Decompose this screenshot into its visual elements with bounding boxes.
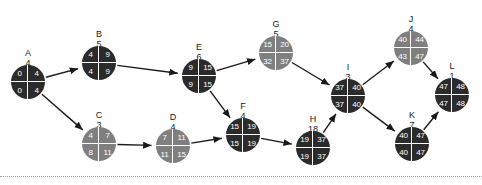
node-l[interactable]: 47484748 <box>435 78 469 112</box>
node-divider-vertical <box>312 131 313 165</box>
node-divider-vertical <box>410 31 411 65</box>
node-d-early-start: 7 <box>156 129 173 146</box>
node-name-h: H <box>291 114 335 124</box>
node-b-early-start: 4 <box>82 46 99 63</box>
node-c-late-finish: 11 <box>99 144 116 161</box>
node-j-late-finish: 47 <box>411 48 428 65</box>
node-name-i: I <box>326 62 370 72</box>
node-divider-horizontal <box>296 147 330 148</box>
node-c-early-start: 4 <box>82 127 99 144</box>
node-l-early-finish: 48 <box>452 78 469 95</box>
node-g-late-finish: 37 <box>276 53 293 70</box>
node-divider-horizontal <box>435 94 469 95</box>
node-name-l: L <box>430 61 474 71</box>
node-divider-horizontal <box>226 134 260 135</box>
network-diagram-canvas: A40404B54949C347811D47111115E6915915F415… <box>0 0 482 185</box>
node-g-late-start: 32 <box>259 53 276 70</box>
node-g-early-start: 15 <box>259 36 276 53</box>
node-k-early-start: 40 <box>395 127 412 144</box>
node-l-late-finish: 48 <box>452 95 469 112</box>
node-divider-horizontal <box>331 95 365 96</box>
node-g-early-finish: 20 <box>276 36 293 53</box>
node-e[interactable]: 915915 <box>182 59 216 93</box>
node-c[interactable]: 47811 <box>82 127 116 161</box>
node-divider-vertical <box>172 129 173 163</box>
node-b-late-finish: 9 <box>99 63 116 80</box>
node-name-k: K <box>390 110 434 120</box>
node-d[interactable]: 7111115 <box>156 129 190 163</box>
node-name-j: J <box>389 14 433 24</box>
node-h-early-start: 19 <box>296 131 313 148</box>
node-layer: A40404B54949C347811D47111115E6915915F415… <box>0 0 482 185</box>
bottom-divider <box>0 176 482 177</box>
node-divider-horizontal <box>82 62 116 63</box>
node-j-late-start: 43 <box>394 48 411 65</box>
node-b-early-finish: 9 <box>99 46 116 63</box>
node-h[interactable]: 19371937 <box>296 131 330 165</box>
node-d-early-finish: 11 <box>173 129 190 146</box>
node-name-b: B <box>77 29 121 39</box>
node-h-late-start: 19 <box>296 148 313 165</box>
node-name-d: D <box>151 112 195 122</box>
node-name-a: A <box>6 48 50 58</box>
node-f-late-start: 15 <box>226 135 243 152</box>
node-divider-horizontal <box>156 145 190 146</box>
node-b-late-start: 4 <box>82 63 99 80</box>
node-divider-vertical <box>275 36 276 70</box>
node-a-early-start: 0 <box>11 65 28 82</box>
node-d-late-start: 11 <box>156 146 173 163</box>
node-name-g: G <box>254 19 298 29</box>
node-name-e: E <box>177 42 221 52</box>
node-a-late-start: 0 <box>11 82 28 99</box>
node-divider-vertical <box>451 78 452 112</box>
node-i-late-finish: 40 <box>348 96 365 113</box>
node-e-late-finish: 15 <box>199 76 216 93</box>
node-j[interactable]: 40444347 <box>394 31 428 65</box>
node-f-early-start: 15 <box>226 118 243 135</box>
node-c-late-start: 8 <box>82 144 99 161</box>
node-divider-vertical <box>27 65 28 99</box>
node-k-late-start: 40 <box>395 144 412 161</box>
node-g[interactable]: 15203237 <box>259 36 293 70</box>
node-divider-vertical <box>347 79 348 113</box>
node-a[interactable]: 0404 <box>11 65 45 99</box>
node-f-early-finish: 19 <box>243 118 260 135</box>
node-k-early-finish: 47 <box>412 127 429 144</box>
node-divider-vertical <box>98 127 99 161</box>
node-divider-horizontal <box>82 143 116 144</box>
node-h-early-finish: 37 <box>313 131 330 148</box>
node-f[interactable]: 15191519 <box>226 118 260 152</box>
node-j-early-start: 40 <box>394 31 411 48</box>
node-e-early-finish: 15 <box>199 59 216 76</box>
node-l-late-start: 47 <box>435 95 452 112</box>
node-divider-vertical <box>411 127 412 161</box>
node-e-early-start: 9 <box>182 59 199 76</box>
node-divider-vertical <box>242 118 243 152</box>
node-divider-vertical <box>98 46 99 80</box>
node-c-early-finish: 7 <box>99 127 116 144</box>
node-divider-horizontal <box>11 81 45 82</box>
node-divider-horizontal <box>395 143 429 144</box>
node-i[interactable]: 37403740 <box>331 79 365 113</box>
node-name-f: F <box>221 101 265 111</box>
node-i-late-start: 37 <box>331 96 348 113</box>
node-d-late-finish: 15 <box>173 146 190 163</box>
node-k-late-finish: 47 <box>412 144 429 161</box>
node-f-late-finish: 19 <box>243 135 260 152</box>
node-divider-horizontal <box>259 52 293 53</box>
node-i-early-finish: 40 <box>348 79 365 96</box>
node-k[interactable]: 40474047 <box>395 127 429 161</box>
node-j-early-finish: 44 <box>411 31 428 48</box>
node-b[interactable]: 4949 <box>82 46 116 80</box>
node-a-late-finish: 4 <box>28 82 45 99</box>
node-divider-horizontal <box>182 75 216 76</box>
node-divider-vertical <box>198 59 199 93</box>
node-i-early-start: 37 <box>331 79 348 96</box>
node-e-late-start: 9 <box>182 76 199 93</box>
node-h-late-finish: 37 <box>313 148 330 165</box>
node-name-c: C <box>77 110 121 120</box>
node-l-early-start: 47 <box>435 78 452 95</box>
node-divider-horizontal <box>394 47 428 48</box>
node-a-early-finish: 4 <box>28 65 45 82</box>
